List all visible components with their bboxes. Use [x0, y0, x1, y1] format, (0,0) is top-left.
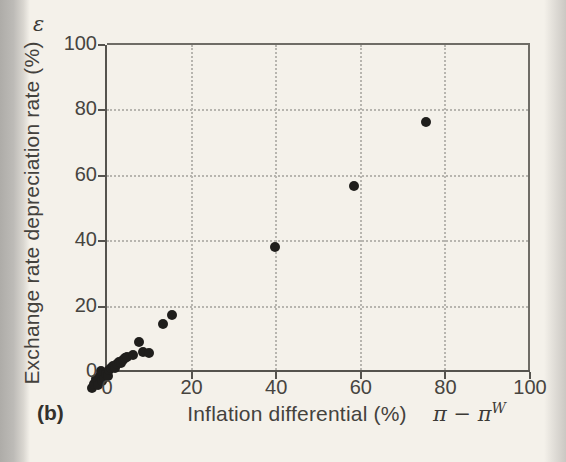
panel-label: (b) [37, 401, 64, 425]
data-point [144, 348, 154, 358]
data-point [134, 337, 144, 347]
x-gridline [191, 45, 193, 370]
scanned-book-figure: ε Exchange rate depreciation rate (%) (b… [0, 0, 566, 462]
data-point [270, 242, 280, 252]
y-tick-label: 60 [47, 163, 97, 186]
data-point [167, 310, 177, 320]
x-axis-title: Inflation differential (%) [156, 402, 438, 426]
scatter-plot-area [107, 43, 530, 370]
x-axis-line [105, 370, 530, 372]
data-point [158, 319, 168, 329]
x-gridline [360, 45, 362, 370]
x-tick-label: 60 [331, 376, 391, 399]
data-point [349, 181, 359, 191]
y-axis-line [105, 45, 107, 374]
y-gridline [107, 175, 528, 177]
y-tick-label: 0 [47, 359, 97, 382]
y-tick-label: 40 [47, 228, 97, 251]
y-gridline [107, 109, 528, 111]
y-gridline [107, 306, 528, 308]
x-gridline [444, 45, 446, 370]
x-tick-label: 40 [246, 376, 306, 399]
y-tick-mark [98, 44, 105, 46]
y-axis-title: Exchange rate depreciation rate (%) [20, 28, 46, 398]
y-tick-mark [98, 109, 105, 111]
y-tick-mark [98, 306, 105, 308]
data-point [128, 350, 138, 360]
y-tick-label: 20 [47, 294, 97, 317]
y-gridline [107, 240, 528, 242]
x-tick-label: 20 [162, 376, 222, 399]
y-tick-mark [98, 175, 105, 177]
x-axis-pi-symbol: π − πW [433, 400, 506, 426]
y-tick-mark [98, 240, 105, 242]
y-tick-label: 100 [47, 32, 97, 55]
x-gridline [275, 45, 277, 370]
y-tick-label: 80 [47, 97, 97, 120]
x-tick-label: 80 [415, 376, 475, 399]
data-point [421, 117, 431, 127]
x-tick-label: 100 [500, 376, 560, 399]
